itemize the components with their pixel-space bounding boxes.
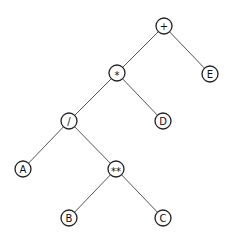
- tree-node-plus: +: [156, 18, 172, 34]
- tree-node-pow: **: [108, 161, 124, 177]
- tree-edge-mul-div: [69, 73, 117, 121]
- tree-edge-pow-B: [69, 169, 116, 218]
- tree-node-C: C: [155, 210, 171, 226]
- tree-node-D: D: [155, 113, 171, 129]
- node-label: +: [160, 21, 168, 32]
- tree-node-mul: *: [109, 65, 125, 81]
- node-label: E: [207, 69, 213, 80]
- tree-node-div: /: [61, 113, 77, 129]
- node-label: D: [159, 116, 167, 127]
- node-label: C: [160, 213, 167, 224]
- tree-node-B: B: [61, 210, 77, 226]
- node-label: B: [66, 213, 73, 224]
- tree-edge-div-A: [23, 121, 69, 169]
- tree-edge-mul-D: [117, 73, 163, 121]
- expression-tree: +*E/DA**BC: [0, 0, 233, 244]
- tree-edges: [23, 26, 210, 218]
- tree-edge-plus-mul: [117, 26, 164, 73]
- node-label: A: [20, 164, 27, 175]
- node-label: **: [111, 166, 121, 177]
- tree-node-A: A: [15, 161, 31, 177]
- tree-node-E: E: [202, 66, 218, 82]
- tree-edge-plus-E: [164, 26, 210, 74]
- node-label: *: [115, 70, 120, 81]
- tree-edge-div-pow: [69, 121, 116, 169]
- tree-edge-pow-C: [116, 169, 163, 218]
- tree-nodes: +*E/DA**BC: [15, 18, 218, 226]
